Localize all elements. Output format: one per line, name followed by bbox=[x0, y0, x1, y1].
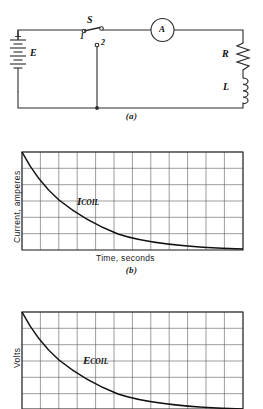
battery-icon bbox=[10, 30, 26, 92]
chart-b-xlabel: Time, seconds bbox=[96, 253, 155, 263]
chart-b-series-label: ICOIL bbox=[77, 191, 99, 209]
chart-c-ylabel: Volts bbox=[12, 348, 22, 368]
chart-c-series-label-sub: COIL bbox=[90, 357, 108, 366]
wire-inductor-to-bottom bbox=[97, 103, 243, 108]
circuit-diagram-panel-a bbox=[0, 0, 263, 120]
switch-pos2-label: 2 bbox=[101, 38, 105, 47]
caption-panel-b: (b) bbox=[0, 265, 263, 275]
switch-label: S bbox=[87, 14, 93, 25]
inductor-coil-icon bbox=[243, 78, 248, 104]
chart-c-grid bbox=[22, 312, 243, 409]
inductor-label: L bbox=[223, 81, 229, 92]
ammeter-label: A bbox=[159, 24, 165, 34]
switch-pos1-label: 1 bbox=[80, 32, 84, 41]
chart-panel-c bbox=[0, 303, 263, 409]
chart-panel-b bbox=[0, 143, 263, 268]
wire-ammeter-to-right bbox=[174, 30, 243, 43]
wire-top-left bbox=[18, 30, 82, 35]
chart-b-grid bbox=[22, 152, 243, 250]
resistor-icon bbox=[237, 43, 249, 70]
junction-dot bbox=[95, 106, 99, 110]
wire-bottom-left bbox=[18, 92, 97, 108]
battery-label: E bbox=[30, 47, 37, 58]
resistor-label: R bbox=[222, 48, 229, 59]
chart-c-series-label: ECOIL bbox=[83, 350, 108, 368]
figure-rl-circuit-decay: E S 1 2 A R L (a) bbox=[0, 0, 263, 409]
caption-panel-a: (a) bbox=[0, 111, 263, 121]
chart-b-series-label-sub: COIL bbox=[81, 198, 99, 207]
chart-b-ylabel: Current, amperes bbox=[12, 170, 22, 243]
